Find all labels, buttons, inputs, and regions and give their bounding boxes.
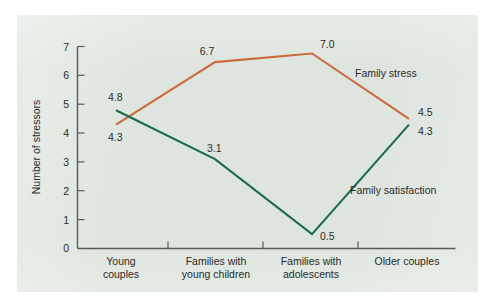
value-labels-family-stress: 4.3 6.7 7.0 4.5 bbox=[108, 38, 433, 143]
y-tick-label-2: 2 bbox=[63, 185, 69, 197]
line-chart: 7 6 5 4 3 2 1 0 Number of stressors Youn… bbox=[0, 0, 492, 307]
x-category-label-0-line-1: couples bbox=[103, 268, 139, 280]
y-axis-title: Number of stressors bbox=[30, 100, 42, 195]
y-tick-label-0: 0 bbox=[63, 242, 69, 254]
value-label-family-stress-2: 7.0 bbox=[320, 38, 335, 50]
x-category-label-2-line-1: adolescents bbox=[283, 268, 339, 280]
value-label-family-stress-3: 4.5 bbox=[418, 106, 433, 118]
x-category-label-1-line-1: young children bbox=[182, 268, 250, 280]
y-tick-label-6: 6 bbox=[63, 69, 69, 81]
x-category-label-1-line-0: Families with bbox=[186, 255, 247, 267]
x-category-label-3: Older couples bbox=[375, 255, 440, 267]
x-category-label-2: Families with adolescents bbox=[281, 255, 342, 280]
value-label-family-satisfaction-1: 3.1 bbox=[207, 142, 222, 154]
value-label-family-stress-1: 6.7 bbox=[200, 45, 215, 57]
y-axis-ticks bbox=[78, 47, 85, 220]
y-tick-label-1: 1 bbox=[63, 214, 69, 226]
y-tick-label-4: 4 bbox=[63, 127, 69, 139]
series-annotation-family-stress: Family stress bbox=[355, 67, 417, 79]
x-category-label-3-line-0: Older couples bbox=[375, 255, 440, 267]
y-tick-label-7: 7 bbox=[63, 41, 69, 53]
value-labels-family-satisfaction: 4.8 3.1 0.5 4.3 bbox=[108, 91, 433, 242]
x-axis-ticks bbox=[168, 242, 358, 249]
y-tick-label-5: 5 bbox=[63, 98, 69, 110]
value-label-family-satisfaction-2: 0.5 bbox=[320, 230, 335, 242]
x-category-label-0-line-0: Young bbox=[106, 255, 136, 267]
y-axis-tick-labels: 7 6 5 4 3 2 1 0 bbox=[63, 41, 69, 255]
y-tick-label-3: 3 bbox=[63, 156, 69, 168]
x-category-label-2-line-0: Families with bbox=[281, 255, 342, 267]
x-axis-category-labels: Young couples Families with young childr… bbox=[103, 255, 440, 280]
value-label-family-satisfaction-0: 4.8 bbox=[108, 91, 123, 103]
value-label-family-stress-0: 4.3 bbox=[108, 131, 123, 143]
series-line-family-stress bbox=[116, 54, 409, 125]
x-category-label-1: Families with young children bbox=[182, 255, 250, 280]
x-category-label-0: Young couples bbox=[103, 255, 139, 280]
value-label-family-satisfaction-3: 4.3 bbox=[418, 125, 433, 137]
series-annotation-family-satisfaction: Family satisfaction bbox=[350, 184, 437, 196]
series-line-family-satisfaction bbox=[116, 110, 409, 234]
